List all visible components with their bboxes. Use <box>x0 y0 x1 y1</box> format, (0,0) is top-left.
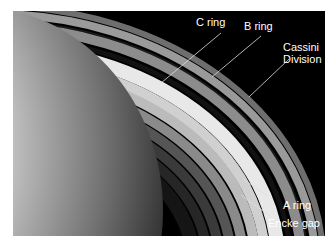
cassini-division-label-line1: Cassini <box>283 41 322 53</box>
a-ring-label: A ring <box>283 199 311 211</box>
b-ring-label: B ring <box>244 20 273 32</box>
encke-gap-label: Encke gap <box>268 217 320 229</box>
saturn-photo: C ring B ring Cassini Division A ring En… <box>13 11 325 236</box>
cassini-division-label: Cassini Division <box>283 41 322 65</box>
c-ring-label: C ring <box>196 16 225 28</box>
saturn-rings-illustration <box>13 11 325 236</box>
cassini-division-label-line2: Division <box>283 53 322 65</box>
